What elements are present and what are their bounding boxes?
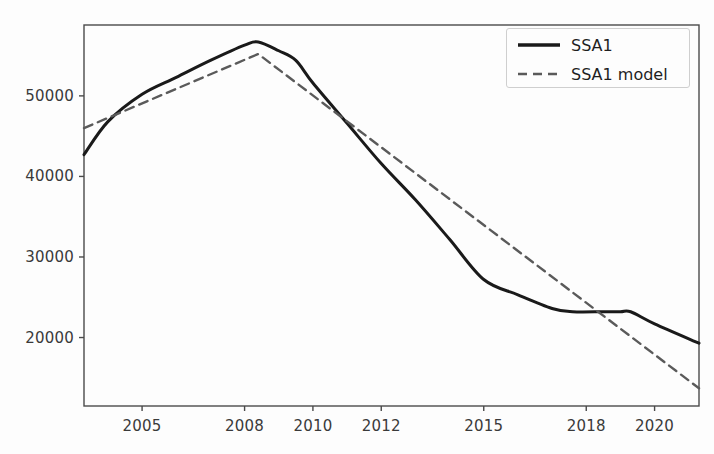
x-tick-label: 2012 xyxy=(362,417,401,435)
legend-dashed-line-icon xyxy=(517,66,561,82)
x-tick-label: 2018 xyxy=(567,417,606,435)
x-tick-label: 2008 xyxy=(225,417,264,435)
legend-label-ssa1-model: SSA1 model xyxy=(571,65,668,84)
legend-label-ssa1: SSA1 xyxy=(571,36,613,55)
legend-solid-line-icon xyxy=(517,37,561,53)
legend-entry-ssa1: SSA1 xyxy=(507,30,689,60)
y-tick-label: 30000 xyxy=(0,248,74,266)
figure-canvas: 20000300004000050000 2005200820102012201… xyxy=(0,0,714,454)
chart-legend: SSA1 SSA1 model xyxy=(506,28,690,88)
x-tick-label: 2015 xyxy=(464,417,503,435)
y-tick-label: 50000 xyxy=(0,87,74,105)
y-tick-label: 40000 xyxy=(0,167,74,185)
x-tick-label: 2010 xyxy=(293,417,332,435)
y-tick-label: 20000 xyxy=(0,329,74,347)
x-tick-label: 2020 xyxy=(635,417,674,435)
legend-entry-ssa1-model: SSA1 model xyxy=(507,59,689,89)
x-tick-label: 2005 xyxy=(123,417,162,435)
y-tick-marks xyxy=(79,96,84,338)
x-tick-marks xyxy=(142,406,655,411)
